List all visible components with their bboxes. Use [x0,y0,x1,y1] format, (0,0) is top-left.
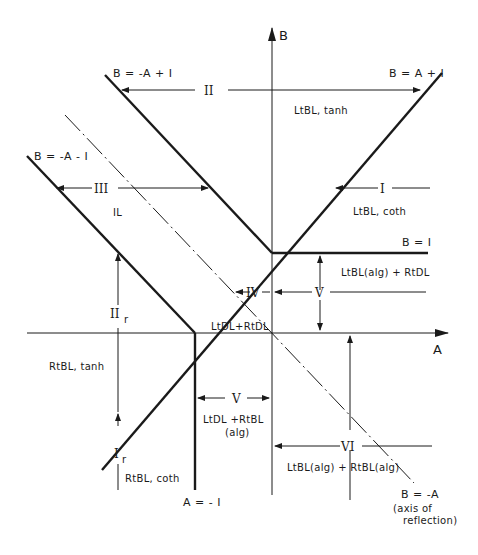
region-II-r-description: RtBL, tanh [49,361,104,372]
region-I-r-description: RtBL, coth [125,473,180,484]
region-II-r-subscript: r [124,314,129,325]
region-III-description: IL [113,207,122,218]
region-V-lower: V LtDL +RtBL (alg) [198,392,269,438]
label-b-neg-a-plus-1: B = -A + I [113,67,172,80]
region-V-upper-description: LtBL(alg) + RtDL [341,267,430,278]
region-III-numeral: III [94,182,108,196]
label-axis-of-reflection-1: (axis of [393,503,432,514]
a-axis-label: A [433,342,442,357]
region-II-r-numeral: II [110,307,120,321]
line-b-neg-a-plus-1 [105,75,272,253]
label-b-neg-a: B = -A [401,488,439,501]
regime-diagram: A B B = -A + I B = A + I B = -A - I B = … [0,0,478,555]
region-I-r-subscript: r [122,454,127,465]
region-II-numeral: II [204,84,214,98]
label-b-neg-a-minus-1: B = -A - I [34,150,88,163]
region-V-upper-numeral: V [314,286,324,300]
label-axis-of-reflection-2: reflection) [403,515,457,526]
region-V-lower-description-1: LtDL +RtBL [203,414,264,425]
region-VI-numeral: VI [340,440,355,454]
region-I-numeral: I [380,182,385,196]
label-b-a-plus-1: B = A + I [389,67,444,80]
label-b-1: B = I [402,236,432,249]
region-V-lower-description-2: (alg) [225,427,250,438]
region-I-r-numeral: I [114,447,119,461]
region-II: II LtBL, tanh [122,84,420,116]
region-IV-numeral: IV [246,286,260,300]
region-VI-description: LtBL(alg) + RtBL(alg) [287,462,399,473]
region-V-lower-numeral: V [231,392,241,406]
region-II-description: LtBL, tanh [294,105,348,116]
region-V-upper: V LtBL(alg) + RtDL [275,256,430,330]
region-I-description: LtBL, coth [353,206,406,217]
region-II-r: II r RtBL, tanh [49,254,129,372]
label-a-neg-1: A = - I [183,496,221,509]
region-I: I LtBL, coth [336,182,430,217]
b-axis-label: B [279,28,288,43]
region-IV-description: LtDL+RtDL [211,321,269,332]
